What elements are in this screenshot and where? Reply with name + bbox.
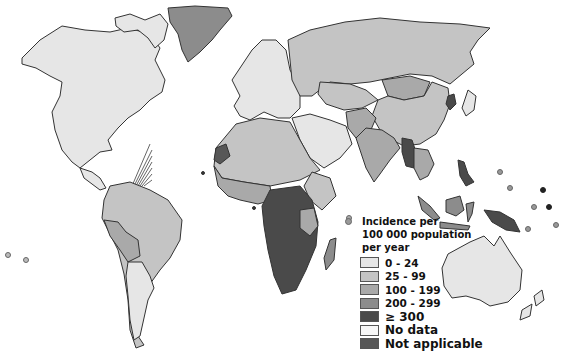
- region-greenland: [168, 6, 232, 62]
- region-central-asia: [318, 82, 378, 110]
- legend-label: 200 - 299: [385, 297, 441, 309]
- region-central-america: [80, 168, 106, 190]
- legend-title-line3: per year: [362, 241, 552, 254]
- region-se-asia: [414, 148, 434, 180]
- legend-swatch: [360, 338, 379, 349]
- legend-title: Incidence per 100 000 population per yea…: [362, 215, 552, 254]
- region-philippines: [458, 160, 474, 186]
- map-legend: Incidence per 100 000 population per yea…: [352, 215, 552, 351]
- legend-label: Not applicable: [385, 337, 483, 351]
- legend-swatch: [360, 311, 379, 322]
- legend-items: 0 - 24 25 - 99 100 - 199 200 - 299 ≥ 300…: [360, 256, 552, 351]
- legend-swatch: [360, 271, 379, 282]
- legend-swatch: [360, 257, 379, 268]
- legend-item-300-plus: ≥ 300: [360, 310, 552, 324]
- legend-item-200-299: 200 - 299: [360, 297, 552, 311]
- region-japan: [462, 90, 476, 116]
- region-indonesia-borneo: [446, 196, 464, 216]
- legend-label: No data: [385, 323, 438, 337]
- region-north-america: [22, 26, 165, 168]
- legend-item-no-data: No data: [360, 324, 552, 338]
- legend-item-not-applicable: Not applicable: [360, 337, 552, 351]
- legend-title-line2: 100 000 population: [362, 228, 552, 241]
- legend-item-25-99: 25 - 99: [360, 270, 552, 284]
- legend-island-marker-icon: [345, 218, 352, 225]
- legend-swatch: [360, 284, 379, 295]
- region-madagascar: [324, 238, 336, 270]
- legend-swatch: [360, 298, 379, 309]
- legend-item-100-199: 100 - 199: [360, 283, 552, 297]
- legend-label: 0 - 24: [385, 257, 419, 269]
- legend-item-0-24: 0 - 24: [360, 256, 552, 270]
- legend-label: ≥ 300: [385, 310, 424, 324]
- region-central-southern-africa: [262, 186, 318, 294]
- legend-label: 100 - 199: [385, 284, 441, 296]
- caribbean-leader-lines: [132, 144, 152, 186]
- legend-title-line1: Incidence per: [362, 215, 552, 228]
- legend-swatch: [360, 325, 379, 336]
- legend-label: 25 - 99: [385, 270, 426, 282]
